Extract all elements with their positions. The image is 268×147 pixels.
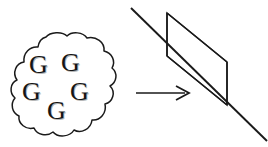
figure-root: G G G G G xyxy=(0,0,268,147)
diagonal-line xyxy=(131,8,267,141)
parallelogram-plane xyxy=(167,13,227,105)
plane-group xyxy=(167,13,227,105)
diagonal-group xyxy=(131,8,267,141)
arrow-group xyxy=(136,86,189,100)
cloud-outline xyxy=(11,33,116,136)
diagram-canvas xyxy=(0,0,268,147)
cloud-group xyxy=(11,33,116,136)
